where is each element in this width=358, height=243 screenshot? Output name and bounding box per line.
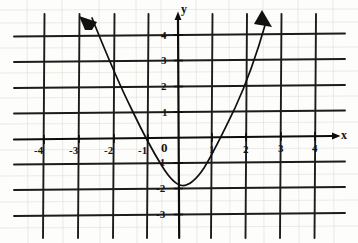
x-tick-label-2: 2	[243, 144, 249, 155]
x-axis-label: x	[341, 129, 347, 141]
x-tick-label-1: 1	[209, 144, 215, 155]
x-tick-label-3: 3	[278, 143, 284, 154]
y-tick-label-4: 4	[161, 30, 167, 41]
x-tick-label-4: 4	[312, 143, 318, 154]
y-tick-label--1: -1	[156, 157, 165, 168]
y-tick-label-1: 1	[162, 107, 168, 118]
origin-label: 0	[161, 141, 168, 154]
y-tick-label--3: -3	[156, 209, 165, 220]
y-axis	[175, 12, 182, 239]
x-tick-label--1: -1	[138, 145, 147, 156]
curve-right-arrowhead	[254, 10, 272, 27]
y-axis-label: y	[181, 3, 187, 15]
x-tick-label--2: -2	[104, 145, 113, 156]
x-tick-label--3: -3	[69, 145, 78, 156]
y-tick-label-2: 2	[161, 81, 167, 92]
y-tick-label-3: 3	[161, 55, 167, 66]
y-tick-label--2: -2	[156, 183, 165, 194]
graph-screenshot: -4 -3 -2 -1 1 2 3 4 0 4 3 2 1 -1 -2 -3 x…	[0, 0, 358, 243]
coordinate-graph	[0, 0, 358, 243]
x-tick-label--4: -4	[34, 145, 43, 156]
x-axis	[14, 133, 341, 140]
